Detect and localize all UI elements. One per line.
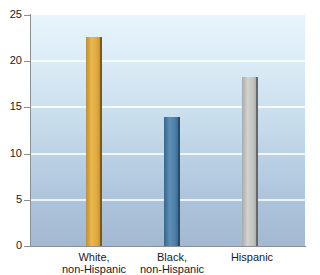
- y-tick-mark-10: [24, 154, 31, 155]
- y-tick-mark-15: [24, 107, 31, 108]
- bar-1: [86, 37, 102, 246]
- y-tick-label-15: 15: [10, 101, 22, 112]
- x-axis-line: [30, 246, 306, 247]
- bar-chart: 0510152025 White,non-HispanicBlack,non-H…: [0, 0, 320, 275]
- y-axis-line: [30, 14, 31, 247]
- category-label-line-1: Hispanic: [204, 251, 300, 263]
- bar-shadow-edge: [256, 77, 258, 246]
- bar-shadow-edge: [100, 37, 102, 246]
- plot-area: [31, 15, 305, 246]
- gridline-15: [31, 106, 305, 108]
- bar-shadow-edge: [178, 117, 180, 246]
- y-tick-label-5: 5: [16, 194, 22, 205]
- y-tick-label-20: 20: [10, 55, 22, 66]
- category-label-line-2: non-Hispanic: [124, 263, 220, 275]
- y-tick-mark-20: [24, 61, 31, 62]
- y-tick-mark-25: [24, 15, 31, 16]
- y-tick-label-0: 0: [16, 240, 22, 251]
- category-label-3: Hispanic: [204, 251, 300, 263]
- gridline-20: [31, 60, 305, 62]
- bar-3: [242, 77, 258, 246]
- y-tick-label-10: 10: [10, 148, 22, 159]
- y-tick-mark-5: [24, 200, 31, 201]
- bar-2: [164, 117, 180, 246]
- y-tick-mark-0: [24, 246, 31, 247]
- y-tick-label-25: 25: [10, 9, 22, 20]
